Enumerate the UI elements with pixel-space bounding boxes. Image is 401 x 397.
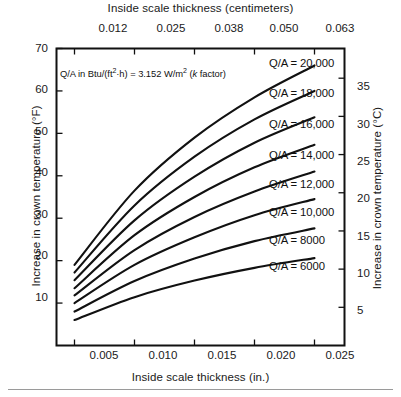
data-curves	[75, 65, 315, 320]
plot-frame	[57, 49, 345, 346]
data-curve	[75, 228, 315, 311]
footer-divider	[8, 389, 393, 390]
plot-area	[0, 0, 401, 397]
tick-marks	[57, 49, 345, 346]
data-curve	[75, 172, 315, 296]
data-curve	[75, 91, 315, 273]
data-curve	[75, 199, 315, 303]
chart-figure: Inside scale thickness (centimeters) Ins…	[0, 0, 401, 397]
